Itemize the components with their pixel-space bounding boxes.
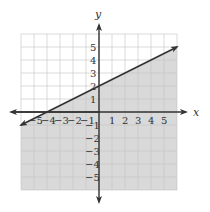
x-tick-label: 4	[148, 115, 154, 126]
y-tick-label: 1	[90, 94, 96, 105]
coordinate-plane: x y −5−4−3−2−112345 54321−1−2−3−4−5	[0, 0, 210, 212]
x-tick-label: 5	[161, 115, 167, 126]
x-tick-label: 3	[135, 115, 141, 126]
x-axis-label: x	[193, 106, 200, 119]
y-tick-label: −3	[85, 146, 100, 157]
x-tick-label: 1	[109, 115, 115, 126]
y-tick-label: 4	[90, 55, 96, 66]
y-tick-label: 2	[90, 81, 96, 92]
y-axis-label: y	[94, 8, 102, 21]
y-tick-label: −5	[85, 172, 100, 183]
x-tick-label: 2	[122, 115, 128, 126]
y-tick-label: −4	[85, 159, 100, 170]
y-tick-label: 5	[90, 42, 96, 53]
y-tick-label: −2	[85, 133, 100, 144]
y-tick-label: 3	[90, 68, 96, 79]
y-tick-label: −1	[85, 120, 100, 131]
